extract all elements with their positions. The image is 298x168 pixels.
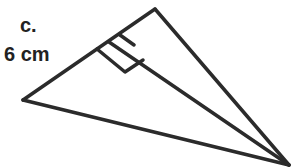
- side-bottom: [23, 100, 289, 165]
- triangle-diagram: [0, 0, 298, 168]
- part-label: c.: [20, 15, 37, 35]
- right-angle-marker-top: [120, 35, 134, 45]
- side-length-label: 6 cm: [4, 44, 50, 64]
